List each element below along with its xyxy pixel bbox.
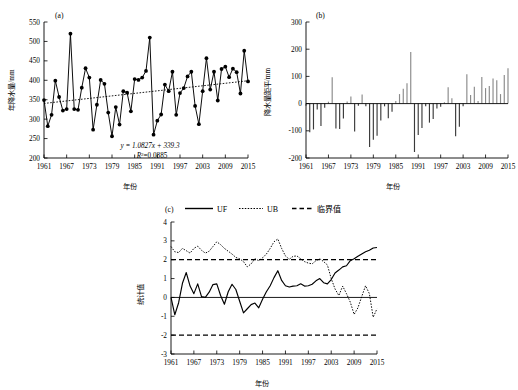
panel-c-x-axis-title: 年份 — [255, 379, 270, 388]
svg-text:1991: 1991 — [150, 162, 165, 171]
svg-text:-2: -2 — [161, 331, 167, 340]
svg-text:500: 500 — [29, 37, 40, 46]
panel-b-x-axis-title: 年份 — [386, 182, 401, 191]
panel-b-y-ticklabels: -200-1000100200300 — [289, 18, 303, 163]
svg-text:1961: 1961 — [37, 162, 52, 171]
svg-text:1973: 1973 — [344, 162, 359, 171]
svg-text:1997: 1997 — [173, 162, 188, 171]
svg-text:1997: 1997 — [433, 162, 448, 171]
svg-text:350: 350 — [29, 95, 40, 104]
svg-text:1985: 1985 — [388, 162, 403, 171]
panel-a-series-line — [44, 34, 248, 137]
svg-text:1991: 1991 — [411, 162, 426, 171]
panel-b-label: (b) — [316, 11, 325, 20]
svg-text:2015: 2015 — [370, 358, 385, 367]
svg-text:1961: 1961 — [299, 162, 314, 171]
svg-text:300: 300 — [29, 115, 40, 124]
svg-text:1967: 1967 — [321, 162, 336, 171]
panel-b-precipitation-anomaly: (b) -200-1000100200300 19611967197319791… — [258, 0, 518, 195]
svg-text:-100: -100 — [289, 126, 303, 135]
svg-text:100: 100 — [291, 72, 302, 81]
panel-a-x-axis-title: 年份 — [123, 182, 138, 191]
svg-text:3: 3 — [163, 236, 167, 245]
svg-text:0: 0 — [298, 99, 302, 108]
svg-text:2003: 2003 — [195, 162, 210, 171]
svg-text:2015: 2015 — [501, 162, 516, 171]
panel-a-y-axis-title: 年降水量/mm — [7, 69, 16, 111]
panel-b-bars — [306, 52, 508, 152]
svg-text:1: 1 — [163, 274, 167, 283]
legend-critical-label: 临界值 — [317, 204, 341, 214]
panel-c-x-ticklabels: 1961196719731979198519911997200320092015 — [164, 358, 385, 367]
svg-text:1979: 1979 — [366, 162, 381, 171]
svg-text:1973: 1973 — [82, 162, 97, 171]
panel-b-y-axis-title: 降水量距平/mm — [263, 67, 272, 116]
svg-text:1967: 1967 — [59, 162, 74, 171]
svg-text:1979: 1979 — [232, 358, 247, 367]
svg-text:1979: 1979 — [105, 162, 120, 171]
svg-text:1967: 1967 — [187, 358, 202, 367]
panel-c-label: (c) — [165, 205, 174, 214]
panel-a-svg: (a) 200250300350400450500550 19611967197… — [0, 0, 260, 195]
svg-text:2003: 2003 — [324, 358, 339, 367]
panel-a-axes — [44, 22, 248, 158]
svg-text:2009: 2009 — [347, 358, 362, 367]
svg-text:300: 300 — [291, 18, 302, 27]
legend: UF UB 临界值 — [185, 204, 341, 214]
svg-text:400: 400 — [29, 76, 40, 85]
svg-text:4: 4 — [163, 218, 167, 227]
svg-text:1985: 1985 — [127, 162, 142, 171]
svg-text:2009: 2009 — [218, 162, 233, 171]
svg-text:250: 250 — [29, 134, 40, 143]
svg-text:0: 0 — [163, 293, 167, 302]
svg-text:1961: 1961 — [164, 358, 179, 367]
r-squared-label: R2=0.0885 — [136, 152, 168, 161]
trend-equation-label: y = 1.0827x + 339.3 — [119, 142, 180, 150]
panel-c-uf-curve — [171, 247, 377, 314]
panel-a-y-ticklabels: 200250300350400450500550 — [29, 18, 40, 163]
panel-c-svg: (c) UF UB 临界值 -3-2-101234 19611967197319… — [129, 194, 391, 390]
panel-c-y-ticklabels: -3-2-101234 — [161, 218, 167, 359]
svg-text:2009: 2009 — [478, 162, 493, 171]
svg-text:1973: 1973 — [209, 358, 224, 367]
svg-text:1985: 1985 — [255, 358, 270, 367]
svg-text:2003: 2003 — [456, 162, 471, 171]
panel-c-y-axis-title: 统计值 — [136, 284, 145, 305]
panel-b-x-ticklabels: 1961196719731979198519911997200320092015 — [299, 162, 516, 171]
panel-a-label: (a) — [55, 11, 64, 20]
svg-text:-1: -1 — [161, 312, 167, 321]
panel-a-annual-precipitation: (a) 200250300350400450500550 19611967197… — [0, 0, 260, 195]
panel-a-x-ticklabels: 1961196719731979198519911997200320092015 — [37, 162, 256, 171]
svg-text:2015: 2015 — [241, 162, 256, 171]
svg-text:550: 550 — [29, 18, 40, 27]
svg-text:1991: 1991 — [278, 358, 293, 367]
figure-precipitation-analysis: (a) 200250300350400450500550 19611967197… — [0, 0, 518, 390]
panel-b-svg: (b) -200-1000100200300 19611967197319791… — [258, 0, 518, 195]
svg-text:450: 450 — [29, 56, 40, 65]
svg-text:200: 200 — [291, 45, 302, 54]
panel-c-mann-kendall: (c) UF UB 临界值 -3-2-101234 19611967197319… — [129, 194, 391, 390]
svg-text:2: 2 — [163, 255, 167, 264]
svg-text:1997: 1997 — [301, 358, 316, 367]
legend-uf-label: UF — [217, 205, 228, 214]
legend-ub-label: UB — [267, 205, 278, 214]
